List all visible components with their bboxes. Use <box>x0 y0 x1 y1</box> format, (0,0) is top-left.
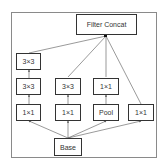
pool-node: Pool <box>93 104 119 121</box>
conv1x1-node: 1×1 <box>93 78 119 95</box>
filter-concat-node: Filter Concat <box>76 14 137 35</box>
conv1x1-node: 1×1 <box>16 104 41 121</box>
conv1x1-node: 1×1 <box>128 104 154 121</box>
conv3x3-node: 3×3 <box>16 53 41 70</box>
conv3x3-node: 3×3 <box>55 78 81 95</box>
conv1x1-node: 1×1 <box>55 104 81 121</box>
base-node: Base <box>54 138 82 156</box>
conv3x3-node: 3×3 <box>16 78 41 95</box>
